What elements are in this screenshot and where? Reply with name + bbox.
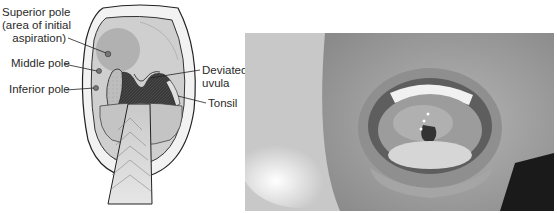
mouth-illustration: Superior pole (area of initial aspiratio…: [0, 0, 245, 213]
label-line: uvula: [202, 77, 247, 90]
label-deviated-uvula: Deviated uvula: [202, 64, 247, 90]
label-line: (area of initial: [2, 19, 66, 32]
label-line: Superior pole: [2, 6, 66, 19]
abscess-swelling: [96, 28, 140, 72]
label-inferior-pole: Inferior pole: [9, 83, 70, 96]
middle-pole-point: [97, 69, 102, 74]
label-line: aspiration): [2, 32, 66, 45]
label-middle-pole: Middle pole: [11, 57, 70, 70]
label-superior-pole: Superior pole (area of initial aspiratio…: [2, 6, 66, 45]
clinical-photo: [245, 33, 554, 211]
superior-pole-point: [105, 51, 111, 57]
open-mouth-photo: [245, 33, 554, 211]
label-line: Deviated: [202, 64, 247, 77]
label-tonsil: Tonsil: [208, 97, 237, 110]
inferior-pole-point: [94, 86, 99, 91]
medical-figure: Superior pole (area of initial aspiratio…: [0, 0, 557, 213]
